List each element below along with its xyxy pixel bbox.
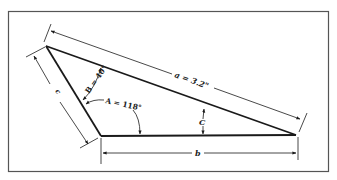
angle-b-label: B = 40°	[83, 64, 109, 96]
side-c-label: c	[53, 87, 63, 96]
angle-c-label: C	[199, 117, 206, 127]
angle-a-arc-2	[133, 110, 140, 134]
triangle-diagram: a = 3.2" c b B = 40° A = 118° C	[0, 0, 337, 180]
side-b-line	[101, 135, 296, 136]
side-b-label: b	[195, 148, 201, 158]
angle-a-label: A = 118°	[104, 96, 143, 113]
angle-a-arc	[86, 100, 104, 104]
dimension-c	[26, 47, 98, 148]
side-a-label: a = 3.2"	[173, 69, 210, 90]
